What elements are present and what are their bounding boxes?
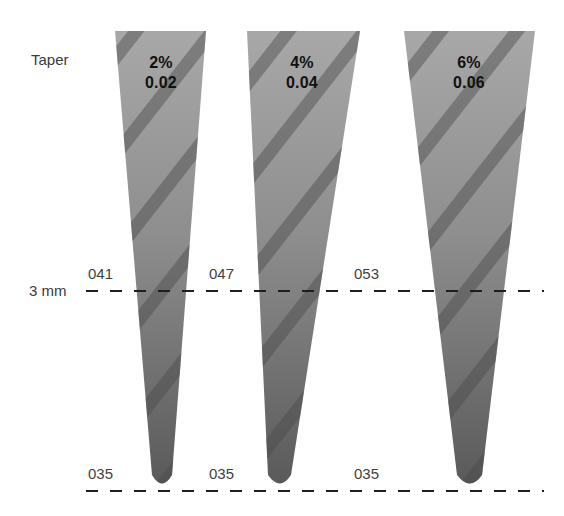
cone-3-percent: 6% [443, 53, 495, 73]
cone-1-percent: 2% [135, 53, 187, 73]
cone-1-diameter-3mm: 041 [88, 266, 113, 281]
cone-1-taper-label: 2% 0.02 [135, 53, 187, 93]
cone-2-taper-label: 4% 0.04 [276, 53, 328, 93]
cone-3-tip-diameter: 035 [354, 466, 379, 481]
cone-2-percent: 4% [276, 53, 328, 73]
cone-2-decimal: 0.04 [276, 73, 328, 93]
cone-2-diameter-3mm: 047 [209, 266, 234, 281]
cone-3-taper-label: 6% 0.06 [443, 53, 495, 93]
cone-1-decimal: 0.02 [135, 73, 187, 93]
cone-3-decimal: 0.06 [443, 73, 495, 93]
cone-3-diameter-3mm: 053 [354, 266, 379, 281]
cone-1-tip-diameter: 035 [88, 466, 113, 481]
3mm-label: 3 mm [29, 283, 67, 298]
cone-2-tip-diameter: 035 [209, 466, 234, 481]
taper-row-label: Taper [31, 52, 69, 67]
